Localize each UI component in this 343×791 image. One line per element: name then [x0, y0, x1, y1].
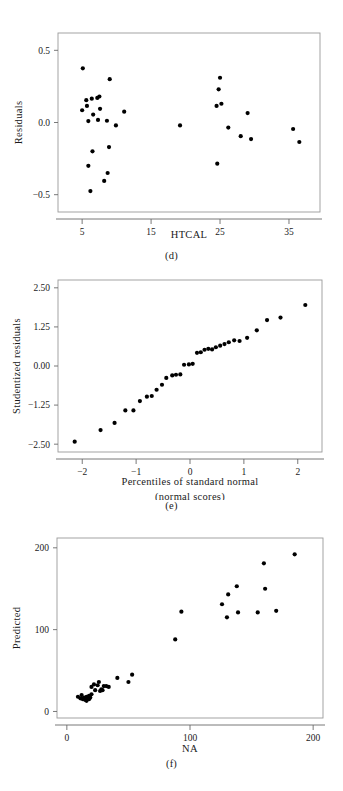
- data-point: [227, 340, 231, 344]
- x-tick-label: 2: [295, 467, 300, 477]
- x-tick-label: −2: [77, 467, 87, 477]
- x-axis-title: NA: [182, 743, 198, 754]
- data-point: [255, 328, 259, 332]
- x-tick-label: 0: [64, 733, 69, 743]
- data-point: [97, 680, 101, 684]
- data-point: [214, 104, 218, 108]
- y-tick-label: 0: [44, 707, 49, 717]
- data-point: [89, 692, 93, 696]
- data-point: [239, 134, 243, 138]
- data-point: [206, 347, 210, 351]
- x-tick-label: 100: [183, 733, 198, 743]
- data-point: [210, 347, 214, 351]
- data-point: [107, 685, 111, 689]
- panel-caption-d: (d): [0, 250, 343, 261]
- data-point: [237, 339, 241, 343]
- data-point: [191, 362, 195, 366]
- data-point: [236, 610, 240, 614]
- data-point: [222, 342, 226, 346]
- data-point: [90, 149, 94, 153]
- data-point: [150, 394, 154, 398]
- data-point: [297, 140, 301, 144]
- data-point: [131, 408, 135, 412]
- data-point: [84, 98, 88, 102]
- y-tick-label: 1.25: [33, 322, 50, 332]
- y-tick-label: 200: [35, 543, 50, 553]
- data-point: [219, 102, 223, 106]
- y-axis-title: Studentized residuals: [11, 318, 22, 414]
- data-point: [112, 421, 116, 425]
- data-point: [164, 376, 168, 380]
- data-point: [91, 112, 95, 116]
- panel-caption-f: (f): [0, 758, 343, 769]
- data-point: [174, 373, 178, 377]
- data-point: [199, 350, 203, 354]
- data-point: [122, 110, 126, 114]
- data-point: [106, 171, 110, 175]
- data-point: [160, 383, 164, 387]
- data-point: [226, 592, 230, 596]
- data-point: [245, 336, 249, 340]
- data-point: [232, 338, 236, 342]
- y-tick-label: 0.0: [38, 118, 50, 128]
- y-tick-label: 2.50: [33, 283, 50, 293]
- y-tick-label: 0.5: [38, 46, 50, 56]
- data-point: [187, 362, 191, 366]
- scatter-plot-e: −2.50−1.250.001.252.50−2−1012Percentiles…: [0, 272, 343, 500]
- data-point: [178, 372, 182, 376]
- plot-frame: [58, 33, 320, 212]
- data-point: [98, 428, 102, 432]
- data-point: [155, 388, 159, 392]
- y-axis-title: Predicted: [11, 606, 22, 649]
- data-point: [278, 315, 282, 319]
- data-point: [195, 351, 199, 355]
- data-point: [214, 345, 218, 349]
- y-axis-title: Residuals: [13, 101, 24, 145]
- data-point: [225, 615, 229, 619]
- data-point: [226, 125, 230, 129]
- data-point: [215, 162, 219, 166]
- data-point: [97, 94, 101, 98]
- data-point-group: [76, 552, 297, 703]
- data-point: [86, 164, 90, 168]
- data-point: [102, 179, 106, 183]
- x-axis-subtitle: (normal scores): [155, 491, 225, 500]
- data-point: [85, 104, 89, 108]
- data-point: [123, 408, 127, 412]
- data-point: [130, 673, 134, 677]
- data-point: [98, 107, 102, 111]
- data-point: [249, 137, 253, 141]
- x-tick-label: 15: [146, 227, 156, 237]
- panel-caption-e: (e): [0, 500, 343, 511]
- scatter-plot-f: 01002000100200NAPredicted: [0, 530, 343, 755]
- data-point: [88, 189, 92, 193]
- data-point: [86, 119, 90, 123]
- data-point-group: [73, 303, 308, 444]
- y-tick-label: 100: [35, 625, 50, 635]
- data-point: [100, 688, 104, 692]
- data-point: [178, 123, 182, 127]
- data-point: [115, 676, 119, 680]
- data-point: [73, 440, 77, 444]
- data-point: [217, 87, 221, 91]
- data-point: [126, 680, 130, 684]
- y-tick-label: 0.00: [33, 361, 50, 371]
- data-point: [218, 76, 222, 80]
- data-point: [107, 145, 111, 149]
- data-point: [246, 111, 250, 115]
- data-point: [291, 127, 295, 131]
- data-point: [145, 395, 149, 399]
- data-point: [182, 363, 186, 367]
- data-point: [90, 97, 94, 101]
- data-point: [265, 318, 269, 322]
- y-tick-label: −1.25: [28, 400, 50, 410]
- data-point: [293, 552, 297, 556]
- data-point: [262, 561, 266, 565]
- data-point: [263, 587, 267, 591]
- data-point: [274, 609, 278, 613]
- x-tick-label: 5: [80, 227, 85, 237]
- x-axis-title: HTCAL: [171, 229, 208, 240]
- x-axis-title: Percentiles of standard normal: [122, 476, 259, 487]
- data-point: [80, 108, 84, 112]
- data-point: [256, 610, 260, 614]
